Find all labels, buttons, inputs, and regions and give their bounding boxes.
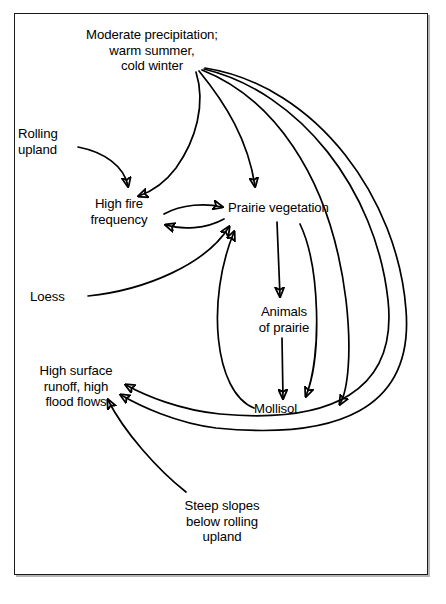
node-high-fire-frequency: High fire frequency	[78, 196, 160, 227]
node-steep-slopes: Steep slopes below rolling upland	[160, 498, 284, 545]
node-rolling-upland: Rolling upland	[18, 126, 114, 157]
node-high-surface-runoff: High surface runoff, high flood flows	[14, 363, 138, 410]
diagram-canvas: Moderate precipitation; warm summer, col…	[0, 0, 446, 604]
node-loess: Loess	[30, 289, 86, 305]
node-climate: Moderate precipitation; warm summer, col…	[72, 27, 232, 74]
node-mollisol: Mollisol	[254, 401, 330, 417]
node-animals-of-prairie: Animals of prairie	[243, 304, 325, 335]
node-prairie-vegetation: Prairie vegetation	[228, 200, 352, 216]
